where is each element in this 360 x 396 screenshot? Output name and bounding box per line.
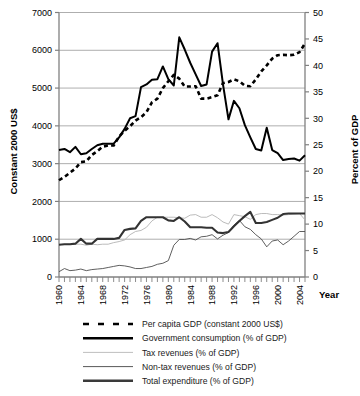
y-axis-right-tick-label: 50 bbox=[313, 8, 323, 18]
x-axis-tick-label: 1988 bbox=[207, 285, 217, 305]
y-axis-right-tick-label: 20 bbox=[313, 166, 323, 176]
x-axis-tick-label: 1996 bbox=[251, 285, 261, 305]
x-axis-tick-label: 1992 bbox=[229, 285, 239, 305]
legend-label: Per capita GDP (constant 2000 US$) bbox=[142, 319, 283, 329]
x-axis-tick-label: 1964 bbox=[76, 285, 86, 305]
chart-legend: Per capita GDP (constant 2000 US$)Govern… bbox=[83, 319, 287, 386]
y-axis-right-tick-label: 0 bbox=[313, 272, 318, 282]
y-axis-left-tick-label: 0 bbox=[47, 272, 52, 282]
legend-label: Total expenditure (% of GDP) bbox=[142, 376, 254, 386]
y-axis-left-tick-label: 5000 bbox=[32, 83, 52, 93]
y-axis-left-tick-label: 6000 bbox=[32, 45, 52, 55]
x-axis-tick-label: 1972 bbox=[120, 285, 130, 305]
y-axis-left-tick-label: 4000 bbox=[32, 121, 52, 131]
y-axis-right-tick-label: 40 bbox=[313, 61, 323, 71]
x-axis: 1960196419681972197619801984198819921996… bbox=[54, 277, 305, 305]
y-axis-left-tick-label: 2000 bbox=[32, 197, 52, 207]
x-axis-tick-label: 1980 bbox=[164, 285, 174, 305]
x-axis-tick-label: 1960 bbox=[54, 285, 64, 305]
series-line bbox=[59, 43, 305, 180]
y-axis-left-tick-label: 7000 bbox=[32, 8, 52, 18]
x-axis-tick-label: 1968 bbox=[98, 285, 108, 305]
legend-label: Government consumption (% of GDP) bbox=[142, 333, 287, 343]
gridlines bbox=[59, 13, 305, 278]
chart-figure: Constant 2000 US$ Percent of GDP Year 01… bbox=[0, 0, 360, 396]
y-axis-right-tick-label: 10 bbox=[313, 219, 323, 229]
x-axis-tick-label: 1984 bbox=[186, 285, 196, 305]
y-axis-left-tick-label: 1000 bbox=[32, 234, 52, 244]
legend-label: Non-tax revenues (% of GDP) bbox=[142, 362, 256, 372]
series-line bbox=[59, 220, 305, 271]
chart-canvas: 01000200030004000500060007000 0510152025… bbox=[0, 0, 360, 396]
y-axis-right-tick-label: 25 bbox=[313, 140, 323, 150]
series-line bbox=[59, 37, 305, 160]
y-axis-right-title: Percent of GDP bbox=[349, 90, 360, 210]
y-axis-left-tick-label: 3000 bbox=[32, 159, 52, 169]
x-axis-title: Year bbox=[319, 289, 339, 300]
data-series bbox=[59, 37, 305, 271]
y-axis-right: 05101520253035404550 bbox=[305, 8, 323, 283]
y-axis-left-title: Constant 2000 US$ bbox=[8, 92, 19, 212]
y-axis-right-tick-label: 15 bbox=[313, 193, 323, 203]
y-axis-right-tick-label: 35 bbox=[313, 87, 323, 97]
legend-label: Tax revenues (% of GDP) bbox=[142, 348, 240, 358]
x-axis-tick-label: 2004 bbox=[295, 285, 305, 305]
y-axis-right-tick-label: 45 bbox=[313, 34, 323, 44]
x-axis-tick-label: 1976 bbox=[142, 285, 152, 305]
y-axis-left: 01000200030004000500060007000 bbox=[32, 8, 59, 283]
y-axis-right-tick-label: 30 bbox=[313, 114, 323, 124]
y-axis-right-tick-label: 5 bbox=[313, 246, 318, 256]
x-axis-tick-label: 2000 bbox=[273, 285, 283, 305]
